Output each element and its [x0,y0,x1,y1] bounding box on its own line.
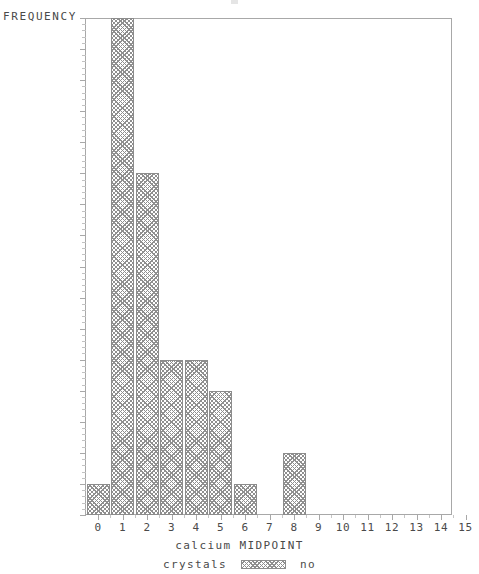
bar [234,484,257,515]
bar [136,173,159,515]
bar [185,360,208,515]
bar [160,360,183,515]
bar [111,18,134,515]
histogram-chart: FREQUENCY 012345678910111213141516 01234… [0,0,479,574]
bar [283,453,306,515]
bar [87,484,110,515]
legend-entry-label: no [300,558,316,571]
bar-series-no [0,0,479,574]
legend-title: crystals [163,558,227,571]
x-axis-title: calcium MIDPOINT [0,539,479,552]
bar [209,391,232,515]
legend-swatch-icon [241,560,286,569]
chart-legend: crystals no [0,558,479,571]
